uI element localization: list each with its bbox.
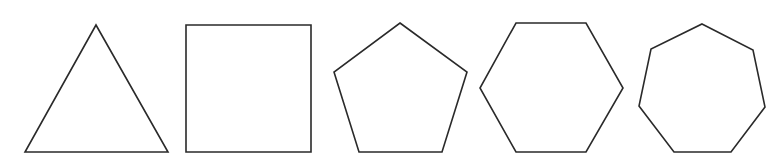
hexagon-shape <box>480 23 623 152</box>
pentagon-shape <box>334 23 467 152</box>
triangle-shape <box>25 25 168 152</box>
polygon-diagram: Regular polygons <box>0 0 783 164</box>
square-shape <box>186 25 311 152</box>
polygons-svg <box>0 0 783 164</box>
heptagon-shape <box>639 24 765 152</box>
